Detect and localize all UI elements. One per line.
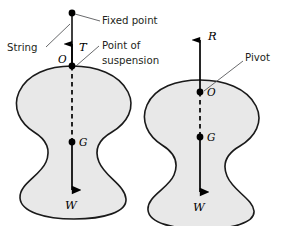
right-pivot-point-dot: [197, 89, 204, 96]
tension-vector-label: T: [79, 40, 88, 54]
right-centre-of-gravity-dot: [197, 134, 204, 141]
left-weight-vector-label: W: [65, 198, 78, 212]
left-centre-of-gravity-label: G: [79, 136, 87, 148]
physics-figure: Fixed point String Point of suspension T…: [0, 0, 291, 226]
fixed-point-label: Fixed point: [102, 15, 158, 26]
figure-canvas: Fixed point String Point of suspension T…: [0, 0, 291, 226]
left-centre-of-gravity-dot: [69, 139, 76, 146]
reaction-vector-label: R: [207, 29, 217, 43]
fixed-point-leader-line: [75, 14, 100, 21]
point-of-suspension-label-line1: Point of: [102, 40, 141, 51]
string-label: String: [7, 42, 37, 53]
right-weight-vector-label: W: [193, 200, 206, 214]
left-suspension-point-dot: [69, 63, 76, 70]
right-centre-of-gravity-label: G: [207, 131, 215, 143]
left-diagram-group: Fixed point String Point of suspension T…: [7, 10, 159, 219]
string-leader-line: [46, 24, 70, 47]
left-suspension-point-label: O: [58, 53, 67, 65]
point-of-suspension-label-line2: suspension: [102, 55, 159, 66]
right-diagram-group: Pivot R W O G: [144, 29, 270, 226]
left-fixed-point-dot: [69, 10, 76, 17]
right-pivot-point-label: O: [207, 86, 216, 98]
pivot-label: Pivot: [245, 52, 270, 63]
